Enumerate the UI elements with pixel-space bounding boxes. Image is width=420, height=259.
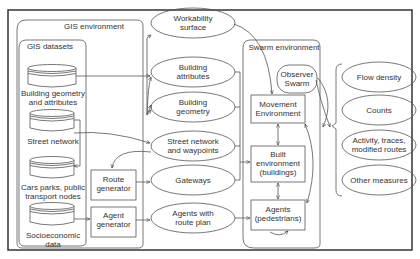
gis-datasets-label: GIS datasets: [20, 42, 80, 52]
swarm-environment-label: Swarm environment: [246, 43, 322, 53]
swarm-label: (buildings): [251, 168, 305, 178]
layer-label: route plan: [151, 218, 235, 228]
output-label: Counts: [342, 106, 416, 116]
output-label: Other measures: [342, 176, 416, 186]
layer-label: geometry: [151, 107, 235, 117]
database-icon: [30, 110, 74, 132]
layer-label: surface: [151, 23, 235, 33]
dataset-label: transport nodes: [14, 192, 92, 202]
dataset-label: Street network: [18, 137, 88, 147]
swarm-label: Environment: [251, 109, 305, 119]
connector-arrow: [235, 107, 240, 146]
generator-label: generator: [91, 220, 136, 230]
connector-arrow: [147, 35, 151, 38]
output-brace: [332, 64, 342, 196]
connector-arrow: [235, 72, 240, 180]
connector-arrow: [112, 151, 151, 168]
database-icon: [28, 65, 76, 88]
connector-arrow: [270, 231, 288, 235]
output-label: Flow density: [342, 73, 416, 83]
database-icon: [30, 157, 74, 179]
swarm-label: (pedestrians): [251, 214, 305, 224]
swarm-label: Swarm: [277, 79, 317, 89]
gis-environment-label: GIS environment: [52, 22, 136, 32]
connector-arrow: [318, 78, 328, 127]
layer-label: and waypoints: [151, 146, 235, 156]
layer-label: attributes: [151, 72, 235, 82]
connector-arrow: [305, 124, 313, 203]
dataset-label: data: [18, 240, 88, 250]
generator-label: generator: [91, 184, 136, 194]
output-label: modified routes: [342, 145, 416, 155]
layer-label: Gateways: [151, 176, 235, 186]
dataset-label: and attributes: [18, 98, 88, 108]
database-icon: [30, 203, 74, 226]
